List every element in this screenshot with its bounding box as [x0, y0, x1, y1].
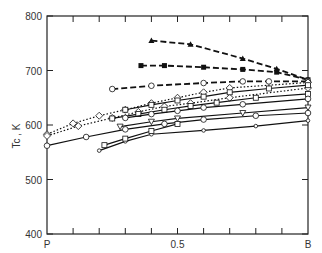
data-point-marker	[175, 108, 181, 114]
series-dashed-triangles	[148, 38, 311, 83]
data-point-marker	[201, 65, 206, 70]
data-point-marker	[149, 102, 154, 107]
data-point-marker	[149, 83, 155, 89]
data-point-marker	[266, 86, 271, 91]
data-point-marker	[227, 90, 232, 95]
data-point-marker	[253, 95, 258, 100]
data-point-marker	[96, 112, 103, 119]
data-point-marker	[109, 86, 115, 92]
data-point-marker	[306, 119, 310, 123]
series-group	[44, 38, 312, 153]
series-solid-circles-1	[123, 96, 311, 121]
data-point-marker	[306, 83, 311, 88]
data-point-marker	[97, 149, 101, 153]
x-tick-label: 0.5	[171, 239, 185, 250]
data-point-marker	[202, 129, 206, 133]
series-solid-short	[102, 121, 180, 147]
x-tick-label: B	[305, 239, 312, 250]
y-tick-label: 500	[25, 175, 42, 186]
data-point-marker	[44, 143, 50, 149]
x-tick-label: P	[44, 239, 51, 250]
data-point-marker	[240, 101, 246, 107]
series-dashed-squares	[138, 63, 310, 82]
series-dashed-circles	[109, 79, 310, 92]
data-point-marker	[175, 98, 180, 103]
x-tick-labels: P0.5B	[44, 239, 312, 250]
data-point-marker	[201, 105, 207, 111]
data-point-marker	[123, 107, 128, 112]
data-point-marker	[201, 94, 206, 99]
data-point-marker	[274, 70, 279, 75]
data-point-marker	[162, 121, 168, 127]
series-line	[151, 41, 308, 80]
data-point-marker	[188, 103, 193, 108]
data-point-marker	[266, 79, 272, 85]
y-tick-label: 400	[25, 229, 42, 240]
data-point-marker	[201, 117, 207, 123]
chart: 400500600700800 P0.5B Tc , K	[0, 0, 322, 253]
data-point-marker	[201, 80, 207, 86]
data-point-marker	[123, 136, 128, 141]
series-solid-small-circles	[97, 119, 309, 153]
data-point-marker	[149, 111, 155, 117]
data-point-marker	[162, 107, 167, 112]
data-point-marker	[240, 67, 245, 72]
data-point-marker	[138, 63, 143, 68]
y-tick-label: 700	[25, 66, 42, 77]
data-point-marker	[254, 124, 258, 128]
data-point-marker	[240, 79, 246, 85]
y-tick-label: 800	[25, 11, 42, 22]
data-point-marker	[123, 127, 129, 133]
y-tick-label: 600	[25, 120, 42, 131]
data-point-marker	[123, 115, 129, 121]
data-point-marker	[162, 63, 167, 68]
data-point-marker	[175, 121, 180, 126]
y-axis-title: Tc , K	[11, 123, 22, 148]
y-tick-labels: 400500600700800	[25, 11, 42, 240]
data-point-marker	[110, 116, 115, 121]
data-point-marker	[102, 143, 107, 148]
data-point-marker	[149, 128, 154, 133]
data-point-marker	[305, 96, 311, 102]
data-point-marker	[253, 113, 259, 119]
data-point-marker	[83, 134, 89, 140]
data-point-marker	[214, 100, 219, 105]
data-point-marker	[305, 110, 311, 116]
